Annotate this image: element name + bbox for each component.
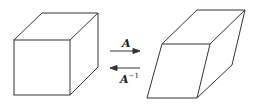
inverse-arrow [110, 66, 140, 71]
inverse-label-base: A [120, 73, 129, 86]
parallelepiped [147, 10, 245, 98]
transformation-diagram [0, 0, 255, 104]
inverse-label: A−1 [120, 72, 139, 86]
cube [14, 13, 98, 95]
inverse-label-sup: −1 [129, 72, 139, 80]
forward-label: A [122, 37, 131, 50]
